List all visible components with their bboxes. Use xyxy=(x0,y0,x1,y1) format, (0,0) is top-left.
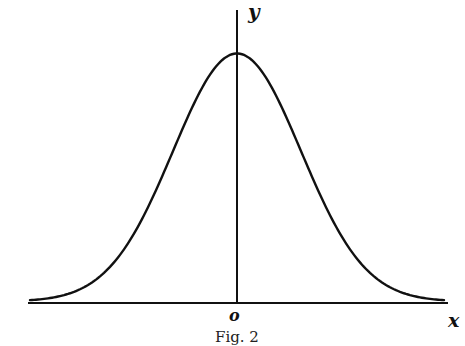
x-axis-label: x xyxy=(448,309,459,331)
origin-label: o xyxy=(229,306,240,325)
figure-caption: Fig. 2 xyxy=(215,328,259,346)
y-axis-label: y xyxy=(248,0,260,24)
